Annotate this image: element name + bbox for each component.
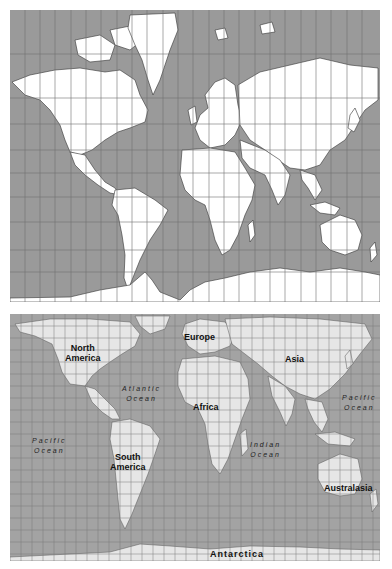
label-indian-ocean: Indian Ocean [250, 440, 281, 460]
label-asia: Asia [285, 354, 304, 364]
label-pacific-ocean-east: Pacific Ocean [342, 393, 377, 413]
label-north-america: North America [65, 343, 101, 363]
label-south-america: South America [110, 452, 146, 472]
label-africa: Africa [193, 402, 219, 412]
label-atlantic-ocean: Atlantic Ocean [122, 384, 161, 404]
label-europe: Europe [184, 332, 215, 342]
label-antarctica: Antarctica [210, 549, 264, 559]
label-australasia: Australasia [324, 483, 373, 493]
mercator-map [10, 10, 380, 302]
equal-area-map: North America Europe Asia Africa South A… [10, 314, 380, 561]
mercator-map-graphic [10, 10, 380, 302]
label-pacific-ocean-west: Pacific Ocean [32, 436, 67, 456]
